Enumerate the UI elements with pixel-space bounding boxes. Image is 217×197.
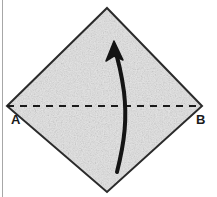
left-edge-rule <box>2 0 3 197</box>
vertex-label-b: B <box>196 113 205 126</box>
paper-folding-figure: A B <box>0 0 217 197</box>
figure-canvas <box>0 0 217 197</box>
vertex-label-a: A <box>11 113 20 126</box>
